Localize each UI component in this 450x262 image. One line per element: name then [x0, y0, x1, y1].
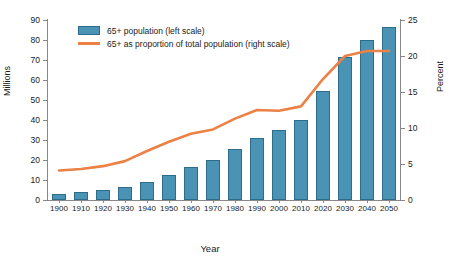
y-axis-right-tick-label: 25	[408, 16, 417, 24]
x-axis-line	[47, 200, 401, 201]
x-axis-tick-label: 1900	[50, 204, 68, 213]
y-axis-left-tick	[43, 20, 47, 21]
bar-2010	[294, 120, 309, 200]
legend-bar-swatch-icon	[78, 26, 100, 35]
y-axis-right-line	[400, 19, 401, 201]
x-axis-tick-label: 1930	[116, 204, 134, 213]
y-axis-right-tick	[401, 20, 405, 21]
y-axis-right-tick	[401, 56, 405, 57]
x-axis-tick-label: 2050	[380, 204, 398, 213]
y-axis-right-tick-label: 10	[408, 124, 417, 132]
y-axis-left-tick-label: 60	[31, 76, 40, 84]
x-axis-tick	[81, 200, 82, 203]
x-axis-tick	[125, 200, 126, 203]
bar-2000	[272, 130, 287, 200]
x-axis-tick	[147, 200, 148, 203]
bar-1910	[74, 192, 89, 200]
x-axis-tick	[191, 200, 192, 203]
x-axis-tick-label: 2020	[314, 204, 332, 213]
y-axis-right-tick-label: 20	[408, 52, 417, 60]
y-axis-left-tick-label: 10	[31, 176, 40, 184]
x-axis-tick	[169, 200, 170, 203]
bar-1960	[184, 167, 199, 200]
x-axis-tick-label: 1980	[226, 204, 244, 213]
y-axis-left-tick-label: 40	[31, 116, 40, 124]
x-axis-tick	[103, 200, 104, 203]
x-axis-tick-label: 2040	[358, 204, 376, 213]
y-axis-right-tick	[401, 128, 405, 129]
x-axis-tick	[213, 200, 214, 203]
legend-label-line: 65+ as proportion of total population (r…	[107, 39, 290, 49]
y-axis-left-tick	[43, 200, 47, 201]
y-axis-left-tick	[43, 100, 47, 101]
y-axis-left-tick	[43, 140, 47, 141]
x-axis-tick-label: 1990	[248, 204, 266, 213]
x-axis-tick	[345, 200, 346, 203]
y-axis-left-tick-label: 90	[31, 16, 40, 24]
x-axis-tick-label: 1940	[138, 204, 156, 213]
x-axis-tick	[235, 200, 236, 203]
x-axis-tick-label: 1960	[182, 204, 200, 213]
legend-label-bar: 65+ population (left scale)	[107, 26, 205, 36]
bar-2040	[360, 40, 375, 200]
x-axis-tick-label: 2010	[292, 204, 310, 213]
x-axis-tick	[301, 200, 302, 203]
x-axis-tick-label: 1910	[72, 204, 90, 213]
x-axis-tick	[257, 200, 258, 203]
bar-2020	[316, 91, 331, 200]
bar-2030	[338, 57, 353, 200]
legend-item-bar: 65+ population (left scale)	[78, 24, 290, 37]
x-axis-tick	[279, 200, 280, 203]
y-axis-right-title: Percent	[435, 61, 445, 92]
bar-1930	[118, 187, 133, 200]
bar-2050	[382, 27, 397, 200]
y-axis-left-tick-label: 30	[31, 136, 40, 144]
y-axis-right-tick	[401, 200, 405, 201]
legend-line-swatch-icon	[78, 42, 100, 45]
y-axis-left-tick-label: 0	[35, 196, 40, 204]
bar-1940	[140, 182, 155, 200]
y-axis-left-tick	[43, 60, 47, 61]
x-axis-tick-label: 1970	[204, 204, 222, 213]
chart-container: 0102030405060708090 0510152025 190019101…	[0, 0, 450, 262]
bar-1920	[96, 190, 111, 200]
bar-1990	[250, 138, 265, 200]
bar-1900	[52, 194, 67, 200]
y-axis-left-tick	[43, 160, 47, 161]
y-axis-left-tick-label: 20	[31, 156, 40, 164]
y-axis-left-tick-label: 70	[31, 56, 40, 64]
bar-1950	[162, 175, 177, 200]
y-axis-left-tick	[43, 180, 47, 181]
x-axis-title: Year	[200, 243, 219, 254]
x-axis-tick-label: 2030	[336, 204, 354, 213]
x-axis-tick	[323, 200, 324, 203]
y-axis-left-title: Millions	[2, 66, 12, 96]
y-axis-left-tick-label: 50	[31, 96, 40, 104]
y-axis-left-tick-label: 80	[31, 36, 40, 44]
y-axis-left-tick	[43, 40, 47, 41]
y-axis-left-tick	[43, 80, 47, 81]
legend-item-line: 65+ as proportion of total population (r…	[78, 37, 290, 50]
x-axis-tick	[367, 200, 368, 203]
x-axis-tick	[389, 200, 390, 203]
chart-legend: 65+ population (left scale) 65+ as propo…	[78, 24, 290, 50]
bar-1980	[228, 149, 243, 200]
y-axis-left-tick	[43, 120, 47, 121]
bar-1970	[206, 160, 221, 200]
y-axis-right-tick	[401, 164, 405, 165]
x-axis-tick	[59, 200, 60, 203]
y-axis-right-tick-label: 5	[408, 160, 413, 168]
x-axis-tick-label: 2000	[270, 204, 288, 213]
x-axis-tick-label: 1920	[94, 204, 112, 213]
y-axis-right-tick-label: 0	[408, 196, 413, 204]
y-axis-right-tick	[401, 92, 405, 93]
y-axis-right-tick-label: 15	[408, 88, 417, 96]
x-axis-tick-label: 1950	[160, 204, 178, 213]
